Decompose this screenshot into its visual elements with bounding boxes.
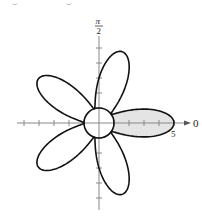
- vertical-axis-label: π 2: [95, 16, 103, 36]
- axes: [17, 36, 191, 210]
- polar-axis-arrow-icon: [184, 121, 191, 126]
- polar-rose-chart: 0 5 π 2: [0, 0, 202, 218]
- polar-axis-label: 0: [193, 117, 199, 129]
- tick-label-5: 5: [171, 129, 176, 139]
- pi-symbol: π: [96, 16, 101, 26]
- denominator-2: 2: [97, 26, 102, 36]
